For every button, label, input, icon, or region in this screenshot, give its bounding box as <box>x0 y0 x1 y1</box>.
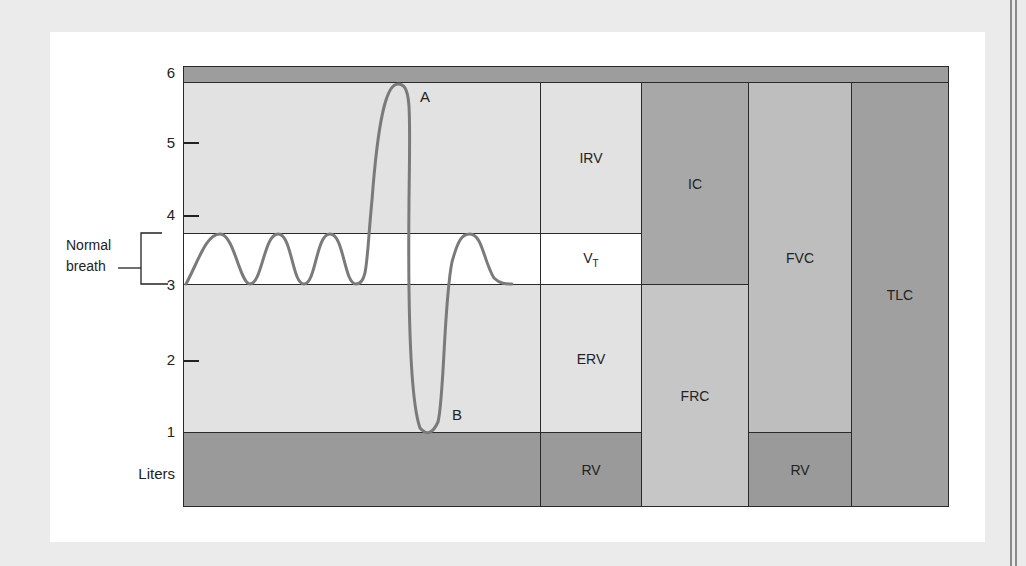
point-a-label: A <box>420 88 430 105</box>
spirogram-trace <box>186 84 512 433</box>
point-b-label: B <box>452 406 462 423</box>
trace-overlay <box>0 0 1026 566</box>
normal-breath-bracket <box>118 233 168 284</box>
